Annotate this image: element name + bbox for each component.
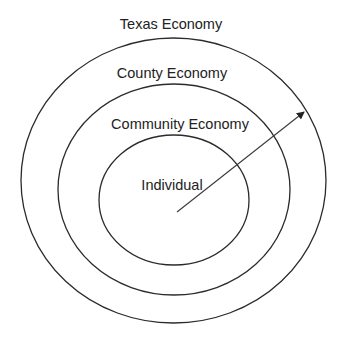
texas-economy-label: Texas Economy (120, 16, 223, 32)
economy-concentric-diagram: Texas Economy County Economy Community E… (0, 0, 343, 338)
community-economy-ring (99, 135, 249, 265)
community-economy-label: Community Economy (111, 116, 250, 132)
county-economy-label: County Economy (117, 65, 228, 81)
individual-label: Individual (141, 177, 202, 193)
